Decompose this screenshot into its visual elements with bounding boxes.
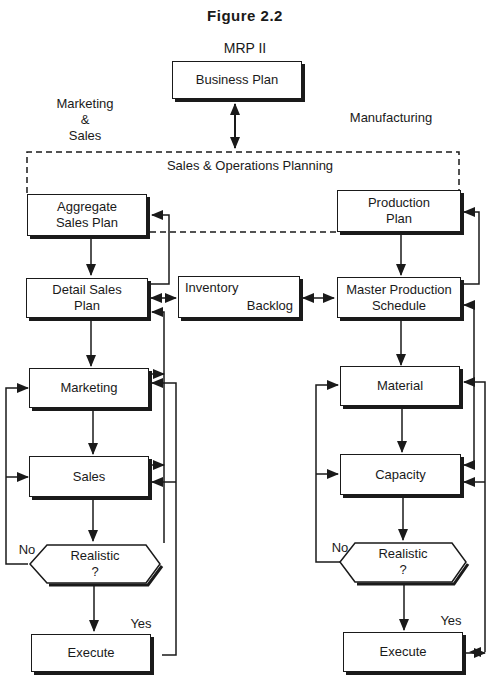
- capacity-box: Capacity: [340, 454, 461, 495]
- box-label: Master Production: [346, 282, 452, 298]
- box-label: Production: [368, 195, 430, 211]
- figure-subtitle: MRP II: [190, 40, 300, 56]
- section-label-line: &: [50, 112, 120, 128]
- figure-title: Figure 2.2: [170, 8, 320, 24]
- right-decision-label: Realistic ?: [368, 546, 438, 578]
- left-execute-box: Execute: [31, 634, 151, 672]
- box-label: Plan: [386, 211, 412, 227]
- section-label-line: Sales: [50, 128, 120, 144]
- right-yes-label: Yes: [436, 613, 466, 629]
- left-decision-label: Realistic ?: [60, 548, 130, 580]
- detail-sales-plan-box: Detail Sales Plan: [26, 278, 148, 318]
- sop-label: Sales & Operations Planning: [150, 158, 350, 174]
- box-label: Sales Plan: [56, 215, 118, 231]
- production-plan-box: Production Plan: [337, 190, 461, 232]
- left-yes-label: Yes: [126, 616, 156, 632]
- manufacturing-section-label: Manufacturing: [336, 110, 446, 126]
- box-label: Material: [377, 378, 423, 394]
- backlog-label: Backlog: [185, 298, 293, 314]
- material-box: Material: [340, 366, 460, 406]
- business-plan-box: Business Plan: [172, 61, 302, 99]
- business-plan-label: Business Plan: [196, 72, 278, 88]
- decision-line: ?: [368, 562, 438, 578]
- decision-line: Realistic: [60, 548, 130, 564]
- box-label: Aggregate: [57, 199, 117, 215]
- box-label: Sales: [73, 469, 106, 485]
- right-no-label: No: [328, 540, 352, 556]
- box-label: Detail Sales: [52, 282, 121, 298]
- aggregate-sales-plan-box: Aggregate Sales Plan: [27, 194, 147, 236]
- marketing-box: Marketing: [29, 368, 149, 408]
- box-label: Capacity: [375, 467, 426, 483]
- master-production-schedule-box: Master Production Schedule: [337, 277, 461, 318]
- section-label-line: Marketing: [50, 96, 120, 112]
- box-label: Marketing: [60, 380, 117, 396]
- box-label: Execute: [380, 644, 427, 660]
- right-execute-box: Execute: [343, 632, 463, 672]
- box-label: Execute: [68, 645, 115, 661]
- sales-box: Sales: [29, 456, 149, 497]
- marketing-sales-section-label: Marketing & Sales: [50, 96, 120, 144]
- box-label: Schedule: [372, 298, 426, 314]
- inventory-label: Inventory: [185, 280, 293, 296]
- inventory-backlog-box: Inventory Backlog: [178, 276, 300, 318]
- box-label: Plan: [74, 298, 100, 314]
- decision-line: Realistic: [368, 546, 438, 562]
- decision-line: ?: [60, 564, 130, 580]
- left-no-label: No: [15, 542, 39, 558]
